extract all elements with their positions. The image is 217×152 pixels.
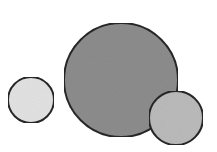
small-left-circle bbox=[8, 77, 54, 123]
circles-diagram bbox=[0, 0, 217, 152]
diagram-canvas bbox=[0, 0, 217, 152]
medium-right-circle bbox=[149, 91, 203, 145]
